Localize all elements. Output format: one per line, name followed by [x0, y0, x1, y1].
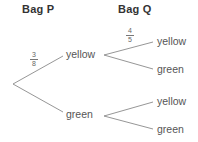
label-q-green-green: green — [157, 123, 184, 135]
bag-p-header: Bag P — [22, 3, 54, 15]
label-p-green: green — [66, 108, 93, 120]
numerator: 4 — [128, 27, 132, 34]
denominator: 8 — [32, 60, 36, 67]
bag-q-header: Bag Q — [118, 3, 151, 15]
label-p-yellow: yellow — [66, 48, 95, 60]
branch-q-green-green — [104, 116, 153, 129]
branch-q-yellow-yellow — [104, 42, 153, 55]
probability-p-yellow: 3 8 — [30, 51, 38, 67]
label-q-yellow-yellow: yellow — [157, 35, 186, 47]
branch-q-green-yellow — [104, 102, 153, 116]
branch-q-yellow-green — [104, 55, 153, 69]
branch-p-green — [13, 84, 63, 112]
label-q-green-yellow: yellow — [157, 95, 186, 107]
branch-p-yellow — [13, 56, 63, 84]
label-q-yellow-green: green — [157, 63, 184, 75]
probability-q-yellow-yellow: 4 5 — [126, 27, 134, 43]
numerator: 3 — [32, 51, 36, 58]
denominator: 5 — [128, 36, 132, 43]
